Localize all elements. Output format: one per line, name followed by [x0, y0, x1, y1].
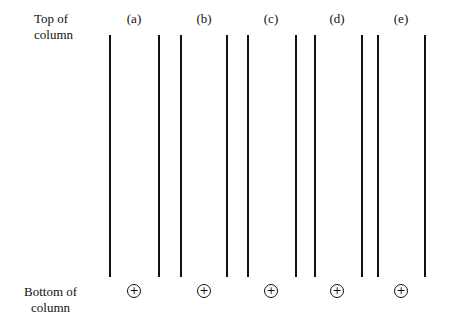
positive-electrode-icon: +	[197, 284, 211, 298]
column-label-c: (c)	[264, 11, 278, 27]
column-label-a: (a)	[127, 11, 141, 27]
column-label-d: (d)	[329, 11, 344, 27]
column-wall-c-right	[295, 35, 297, 277]
column-wall-e-right	[424, 35, 426, 277]
top-label-line2: column	[34, 27, 73, 43]
positive-electrode-icon: +	[330, 284, 344, 298]
column-wall-a-left	[109, 35, 111, 277]
column-wall-b-left	[180, 35, 182, 277]
positive-electrode-icon: +	[394, 284, 408, 298]
column-wall-e-left	[377, 35, 379, 277]
column-label-e: (e)	[394, 11, 408, 27]
positive-electrode-icon: +	[264, 284, 278, 298]
bottom-label-line2: column	[24, 300, 77, 316]
column-label-b: (b)	[196, 11, 211, 27]
column-wall-d-right	[361, 35, 363, 277]
bottom-of-column-label: Bottom of column	[24, 284, 77, 316]
positive-electrode-icon: +	[127, 284, 141, 298]
column-wall-a-right	[158, 35, 160, 277]
top-of-column-label: Top of column	[34, 11, 73, 43]
column-wall-b-right	[226, 35, 228, 277]
column-wall-c-left	[247, 35, 249, 277]
bottom-label-line1: Bottom of	[24, 284, 77, 300]
top-label-line1: Top of	[34, 11, 73, 27]
column-wall-d-left	[314, 35, 316, 277]
